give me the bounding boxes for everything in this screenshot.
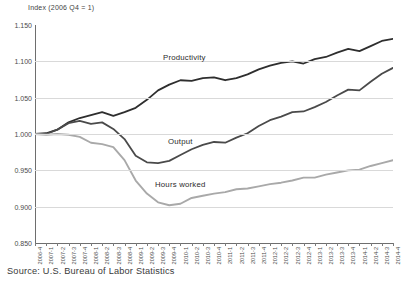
x-tick-mark: [225, 243, 226, 246]
x-tick-mark: [57, 243, 58, 246]
x-tick-mark: [91, 243, 92, 246]
x-tick-label: 2014-3: [384, 247, 390, 264]
x-tick-label: 2008-3: [116, 247, 122, 264]
series-label-output: Output: [168, 137, 193, 146]
x-tick-mark: [169, 243, 170, 246]
x-tick-label: 2007-2: [60, 247, 66, 264]
plot-area: [35, 25, 393, 243]
x-tick-mark: [248, 243, 249, 246]
gridline: [35, 170, 393, 171]
x-tick-label: 2013-3: [339, 247, 345, 264]
x-tick-mark: [125, 243, 126, 246]
x-tick-label: 2007-4: [82, 247, 88, 264]
x-tick-mark: [102, 243, 103, 246]
y-axis-title: Index (2006 Q4 = 1): [28, 4, 94, 11]
x-tick-label: 2014-4: [395, 247, 401, 264]
x-tick-mark: [270, 243, 271, 246]
y-tick-label: 0.850: [14, 240, 32, 247]
x-tick-label: 2008-1: [93, 247, 99, 264]
y-tick-label: 0.950: [14, 167, 32, 174]
x-tick-label: 2012-2: [283, 247, 289, 264]
x-tick-mark: [304, 243, 305, 246]
x-tick-label: 2008-4: [127, 247, 133, 264]
x-tick-mark: [147, 243, 148, 246]
x-tick-label: 2013-1: [317, 247, 323, 264]
x-tick-label: 2014-2: [373, 247, 379, 264]
x-tick-label: 2010-3: [205, 247, 211, 264]
x-tick-mark: [393, 243, 394, 246]
x-tick-label: 2013-2: [328, 247, 334, 264]
x-tick-mark: [158, 243, 159, 246]
series-label-hours: Hours worked: [155, 180, 206, 189]
x-tick-mark: [80, 243, 81, 246]
x-tick-mark: [292, 243, 293, 246]
x-tick-label: 2012-3: [295, 247, 301, 264]
x-tick-mark: [382, 243, 383, 246]
x-tick-label: 2010-1: [183, 247, 189, 264]
x-tick-label: 2010-2: [194, 247, 200, 264]
x-tick-mark: [113, 243, 114, 246]
series-line-productivity: [35, 39, 393, 134]
x-tick-mark: [326, 243, 327, 246]
x-tick-mark: [315, 243, 316, 246]
x-tick-label: 2007-1: [48, 247, 54, 264]
x-tick-label: 2009-3: [160, 247, 166, 264]
y-tick-label: 1.150: [14, 22, 32, 29]
x-tick-mark: [180, 243, 181, 246]
x-tick-mark: [203, 243, 204, 246]
x-tick-mark: [136, 243, 137, 246]
x-tick-mark: [192, 243, 193, 246]
x-tick-label: 2014-1: [362, 247, 368, 264]
productivity-chart-figure: Index (2006 Q4 = 1) 1.1501.1001.0501.000…: [0, 0, 405, 287]
series-label-productivity: Productivity: [163, 53, 206, 62]
source-note: Source: U.S. Bureau of Labor Statistics: [7, 266, 175, 276]
x-tick-label: 2011-1: [227, 247, 233, 264]
x-tick-mark: [348, 243, 349, 246]
y-tick-label: 1.100: [14, 58, 32, 65]
x-tick-label: 2011-2: [239, 247, 245, 264]
x-tick-label: 2008-2: [104, 247, 110, 264]
gridline: [35, 207, 393, 208]
y-axis-tick-labels: 1.1501.1001.0501.0000.9500.9000.850: [0, 0, 32, 287]
x-tick-label: 2007-3: [71, 247, 77, 264]
x-tick-label: 2012-1: [272, 247, 278, 264]
x-tick-label: 2009-1: [138, 247, 144, 264]
y-tick-label: 1.000: [14, 131, 32, 138]
x-tick-mark: [337, 243, 338, 246]
x-tick-label: 2012-4: [306, 247, 312, 264]
x-tick-mark: [214, 243, 215, 246]
x-tick-mark: [259, 243, 260, 246]
x-tick-label: 2011-3: [250, 247, 256, 264]
y-tick-label: 1.050: [14, 94, 32, 101]
x-tick-mark: [359, 243, 360, 246]
x-tick-label: 2009-2: [149, 247, 155, 264]
x-tick-mark: [236, 243, 237, 246]
gridline: [35, 98, 393, 99]
x-tick-mark: [35, 243, 36, 246]
x-tick-mark: [281, 243, 282, 246]
gridline: [35, 61, 393, 62]
y-tick-label: 0.900: [14, 203, 32, 210]
x-tick-mark: [46, 243, 47, 246]
x-tick-label: 2006-4: [37, 247, 43, 264]
x-tick-mark: [371, 243, 372, 246]
x-tick-mark: [69, 243, 70, 246]
x-tick-label: 2013-4: [350, 247, 356, 264]
x-tick-label: 2011-4: [261, 247, 267, 264]
gridline: [35, 134, 393, 135]
x-tick-label: 2010-4: [216, 247, 222, 264]
x-tick-label: 2009-4: [171, 247, 177, 264]
